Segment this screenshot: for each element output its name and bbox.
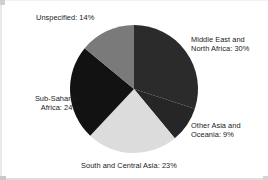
scan-artifact-top-left: [0, 0, 5, 5]
pie-chart-canvas: [0, 0, 268, 180]
slice-label-unspecified: Unspecified: 14%: [36, 13, 94, 22]
scan-artifact-bottom-right: [263, 176, 268, 180]
slice-label-south-central-asia: South and Central Asia: 23%: [81, 161, 177, 170]
slice-label-other-asia-oceania: Other Asia and Oceania: 9%: [191, 121, 241, 139]
pie-slice-group: [70, 25, 198, 153]
scan-artifact-bottom-left: [0, 176, 6, 180]
slice-label-middle-east-north-africa: Middle East and North Africa: 30%: [191, 35, 249, 53]
slice-label-sub-saharan-africa: Sub-Saharan Africa: 24%: [7, 94, 79, 112]
pie-chart-figure: Unspecified: 14% Middle East and North A…: [0, 0, 268, 180]
